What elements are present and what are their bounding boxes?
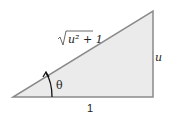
hypotenuse-label: u² + 1 xyxy=(68,33,103,46)
adjacent-side-label: 1 xyxy=(87,102,93,114)
angle-label: θ xyxy=(56,79,63,92)
right-triangle xyxy=(13,11,153,97)
triangle-diagram: u² + 1 u 1 θ xyxy=(0,0,169,119)
opposite-side-label: u xyxy=(155,51,162,64)
